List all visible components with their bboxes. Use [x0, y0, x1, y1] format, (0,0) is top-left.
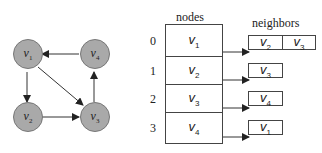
neighbors-header: neighbors: [252, 16, 299, 31]
node-cell-label: v2: [189, 62, 200, 80]
edge-v1-v3: [38, 67, 83, 105]
graph-node-v3: v3: [80, 102, 110, 132]
graph-node-label: v1: [24, 46, 33, 62]
neighbor-cell-2-0: v4: [248, 91, 283, 106]
node-cell-label: v3: [189, 90, 200, 108]
node-cell-label: v4: [189, 119, 200, 137]
row-index: 0: [150, 34, 156, 49]
node-cell-1: v2: [165, 56, 223, 85]
node-cell-3: v4: [165, 112, 223, 144]
row-index: 2: [150, 92, 156, 107]
graph-node-label: v2: [24, 109, 33, 125]
row-index: 1: [150, 64, 156, 79]
row-index: 3: [150, 121, 156, 136]
neighbor-label: v3: [260, 62, 271, 80]
graph-node-v2: v2: [13, 102, 43, 132]
neighbor-label: v3: [294, 34, 305, 52]
graph-node-label: v3: [91, 109, 100, 125]
nodes-header: nodes: [176, 10, 204, 25]
neighbor-cell-3-0: v1: [248, 120, 283, 135]
neighbor-cell-0-0: v2: [248, 35, 283, 50]
graph-node-v4: v4: [80, 39, 110, 69]
node-cell-0: v1: [165, 24, 223, 57]
neighbor-label: v2: [260, 34, 271, 52]
node-cell-2: v3: [165, 84, 223, 113]
node-cell-label: v1: [189, 32, 200, 50]
neighbor-cell-0-1: v3: [282, 35, 316, 50]
graph-node-label: v4: [91, 46, 100, 62]
graph-node-v1: v1: [13, 39, 43, 69]
neighbor-label: v1: [260, 119, 271, 137]
neighbor-cell-1-0: v3: [248, 63, 283, 78]
neighbor-label: v4: [260, 90, 271, 108]
